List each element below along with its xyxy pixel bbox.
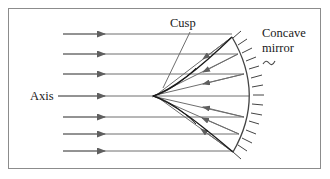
concave-mirror xyxy=(232,31,264,159)
axis-label: Axis xyxy=(30,89,54,103)
reflected-ray xyxy=(152,96,244,117)
mirror-hatching xyxy=(233,31,264,159)
cusp-label: Cusp xyxy=(170,16,196,30)
optics-figure: Axis Cusp Concave mirror xyxy=(0,0,330,179)
reflected-ray xyxy=(156,96,233,152)
ray-diagram: Axis Cusp Concave mirror xyxy=(0,0,330,179)
reflected-ray xyxy=(152,74,244,96)
incident-rays xyxy=(58,34,249,151)
mirror-label-line2: mirror xyxy=(262,41,295,55)
mirror-label-line1: Concave xyxy=(262,26,306,40)
reflected-ray xyxy=(155,37,232,96)
mirror-leader-squiggle xyxy=(263,61,275,65)
